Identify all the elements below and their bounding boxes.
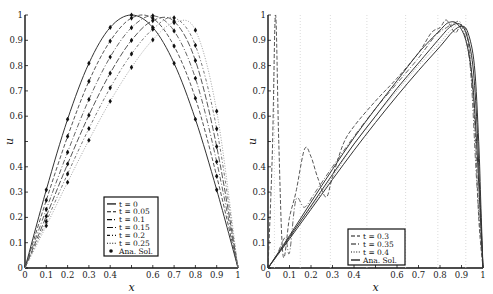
- ana-sol-marker: [66, 180, 69, 185]
- ana-sol-marker: [172, 15, 175, 20]
- y-tick-label: 0.6: [252, 111, 266, 121]
- left-chart: 00.10.20.30.40.60.70.80.9100.10.20.30.40…: [3, 10, 241, 294]
- ana-sol-marker: [151, 37, 154, 42]
- ana-sol-marker: [194, 117, 197, 122]
- x-tick-label: 0.3: [326, 270, 340, 280]
- ana-sol-marker: [45, 187, 48, 192]
- ana-sol-marker: [66, 150, 69, 155]
- x-tick-label: 0.7: [167, 270, 181, 280]
- ana-sol-marker: [109, 54, 112, 59]
- ana-sol-marker: [194, 96, 197, 101]
- right-x-axis-label: x: [372, 281, 379, 294]
- figure: 00.10.20.30.40.60.70.80.9100.10.20.30.40…: [0, 0, 493, 294]
- y-tick-label: 0.6: [9, 111, 23, 121]
- x-tick-label: 0.2: [61, 270, 75, 280]
- ana-sol-marker: [194, 28, 197, 33]
- x-tick-label: 0.1: [40, 270, 54, 280]
- left-y-axis-label: u: [3, 138, 16, 145]
- y-tick-label: 0.9: [252, 35, 266, 45]
- x-tick-label: 0.2: [304, 270, 318, 280]
- x-tick-label: 0.6: [146, 270, 160, 280]
- left-legend: t = 0t = 0.05t = 0.1t = 0.15t = 0.2t = 0…: [104, 197, 158, 256]
- legend-label: Ana. Sol.: [118, 247, 153, 256]
- y-tick-label: 0.7: [9, 86, 23, 96]
- ana-sol-marker: [194, 76, 197, 81]
- x-tick-label: 0: [22, 270, 27, 280]
- y-tick-label: 0.7: [252, 86, 266, 96]
- x-tick-label: 0.9: [455, 270, 469, 280]
- ana-sol-marker: [66, 117, 69, 122]
- ana-sol-marker: [215, 159, 218, 164]
- ana-sol-marker: [45, 198, 48, 203]
- left-x-axis-label: x: [128, 281, 135, 294]
- y-tick-label: 0.1: [252, 238, 266, 248]
- ana-sol-marker: [194, 43, 197, 48]
- x-tick-label: 0.4: [103, 270, 117, 280]
- y-tick-label: 0: [18, 263, 23, 273]
- y-tick-label: 0.8: [252, 61, 266, 71]
- ana-sol-marker: [215, 187, 218, 192]
- ana-sol-marker: [87, 126, 90, 131]
- ana-sol-marker: [130, 15, 133, 20]
- right-y-axis-label: u: [246, 138, 259, 145]
- x-tick-label: 0: [265, 270, 270, 280]
- y-tick-label: 0.1: [9, 238, 23, 248]
- x-tick-label: 0.1: [283, 270, 297, 280]
- diamond-marker-icon: [109, 249, 113, 253]
- y-tick-label: 0.2: [9, 212, 23, 222]
- x-tick-label: 1: [480, 270, 485, 280]
- ana-sol-marker: [66, 134, 69, 139]
- x-tick-label: 1: [235, 270, 240, 280]
- y-tick-label: 0.9: [9, 35, 23, 45]
- x-tick-label: 0.6: [390, 270, 404, 280]
- ana-sol-marker: [215, 174, 218, 179]
- ana-sol-marker: [194, 58, 197, 63]
- right-chart: 00.10.20.30.40.60.70.80.9100.10.20.30.40…: [246, 10, 486, 294]
- y-tick-label: 0.3: [9, 187, 23, 197]
- ana-sol-marker: [215, 144, 218, 149]
- right-legend: t = 0.3t = 0.35t = 0.4Ana. Sol.: [348, 229, 405, 265]
- ana-sol-marker: [215, 126, 218, 131]
- x-tick-label: 0.8: [433, 270, 447, 280]
- x-tick-label: 0.4: [347, 270, 361, 280]
- y-tick-label: 0.8: [9, 61, 23, 71]
- ana-sol-marker: [215, 109, 218, 114]
- y-tick-label: 0.4: [252, 162, 266, 172]
- x-tick-label: 0.3: [82, 270, 96, 280]
- y-tick-label: 1: [261, 10, 266, 20]
- y-tick-label: 0.2: [252, 212, 266, 222]
- legend-label: Ana. Sol.: [362, 256, 397, 265]
- y-tick-label: 1: [18, 10, 23, 20]
- ana-sol-marker: [45, 207, 48, 212]
- y-tick-label: 0.3: [252, 187, 266, 197]
- y-tick-label: 0.4: [9, 162, 23, 172]
- x-tick-label: 0.8: [189, 270, 203, 280]
- y-tick-label: 0: [261, 263, 266, 273]
- x-tick-label: 0.7: [412, 270, 426, 280]
- x-tick-label: 0.9: [210, 270, 224, 280]
